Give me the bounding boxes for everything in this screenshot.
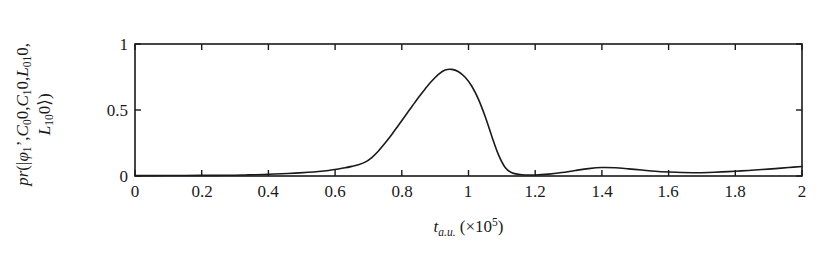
plot-area xyxy=(0,0,829,257)
x-axis-ticks xyxy=(135,44,802,176)
y-axis-ticks xyxy=(135,44,802,176)
data-curve xyxy=(135,69,802,175)
plot-frame xyxy=(135,44,802,176)
figure-container: pr(|φ1’,C00,C10,L010, L100⟩) 1 0.5 0 0 0… xyxy=(0,0,829,257)
